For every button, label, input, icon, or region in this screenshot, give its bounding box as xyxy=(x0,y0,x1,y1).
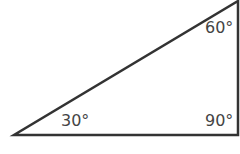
angle-label-60: 60° xyxy=(205,20,233,36)
angle-label-90: 90° xyxy=(205,113,233,129)
triangle-diagram xyxy=(0,0,240,154)
angle-label-30: 30° xyxy=(61,113,89,129)
